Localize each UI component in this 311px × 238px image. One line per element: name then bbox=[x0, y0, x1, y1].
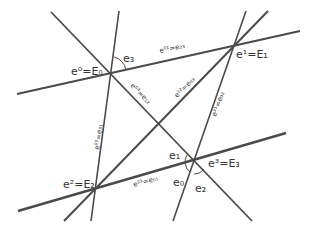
line-label-e02: e⁰²=e₃₁ bbox=[93, 124, 105, 151]
line-e0-e1 bbox=[17, 31, 300, 94]
angle-label-e1: e₁ bbox=[169, 149, 180, 162]
vertex-label-e0: e⁰=E₀ bbox=[71, 65, 103, 78]
lines-group bbox=[17, 11, 300, 221]
line-label-e31: e³¹=e₀₂ bbox=[210, 91, 226, 118]
angle-arc-e1-e0 bbox=[185, 155, 190, 172]
projective-frame-diagram: e⁰=E₀ e¹=E₁ e²=E₂ e³=E₃ e₃ e₁ e₀ e₂ e⁰¹=… bbox=[0, 0, 311, 238]
vertex-label-e2: e²=E₂ bbox=[63, 178, 95, 191]
line-e2-e3 bbox=[18, 133, 286, 211]
angle-label-e2: e₂ bbox=[195, 182, 206, 195]
angle-label-e3: e₃ bbox=[123, 52, 134, 65]
line-label-e03: e⁰³=e₁₂ bbox=[129, 82, 153, 106]
vertex-label-e3: e³=E₃ bbox=[208, 157, 240, 170]
vertex-label-e1: e¹=E₁ bbox=[236, 48, 268, 61]
line-label-e01: e⁰¹=e₂₃ bbox=[159, 42, 186, 55]
angle-label-e0: e₀ bbox=[173, 176, 185, 189]
